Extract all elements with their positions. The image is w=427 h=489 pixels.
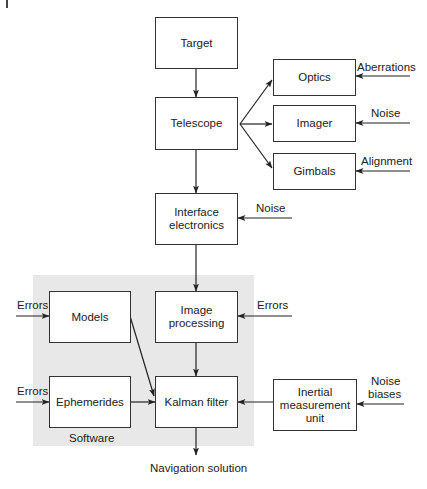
- block-imu-label: Inertial measurement unit: [278, 386, 352, 425]
- block-telescope-label: Telescope: [171, 117, 223, 130]
- input-label-image-processing-errors: Errors: [257, 299, 288, 312]
- input-label-imu-biases: biases: [368, 388, 401, 401]
- block-gimbals: Gimbals: [273, 153, 356, 190]
- input-label-imager-noise: Noise: [371, 107, 400, 120]
- block-target: Target: [155, 17, 238, 69]
- block-interface-electronics-label: Interface electronics: [166, 206, 227, 232]
- block-telescope: Telescope: [155, 97, 238, 150]
- block-image-processing: Image processing: [155, 291, 238, 343]
- input-label-aberrations: Aberrations: [357, 61, 416, 74]
- block-ephemerides-label: Ephemerides: [56, 396, 124, 409]
- output-label-navigation-solution: Navigation solution: [150, 462, 247, 475]
- block-interface-electronics: Interface electronics: [155, 193, 238, 245]
- input-label-ephemerides-errors: Errors: [17, 385, 48, 398]
- block-kalman-filter: Kalman filter: [155, 376, 238, 428]
- block-models: Models: [49, 291, 131, 343]
- input-label-models-errors: Errors: [17, 299, 48, 312]
- block-imu: Inertial measurement unit: [273, 379, 357, 431]
- block-target-label: Target: [181, 37, 213, 50]
- block-gimbals-label: Gimbals: [293, 165, 335, 178]
- block-optics: Optics: [273, 59, 356, 96]
- block-optics-label: Optics: [298, 71, 331, 84]
- software-group-label: Software: [69, 432, 114, 445]
- block-kalman-filter-label: Kalman filter: [165, 396, 229, 409]
- block-imager-label: Imager: [297, 117, 333, 130]
- input-label-interface-noise: Noise: [256, 202, 285, 215]
- input-label-imu-noise: Noise: [371, 375, 400, 388]
- input-label-alignment: Alignment: [361, 155, 412, 168]
- block-ephemerides: Ephemerides: [49, 376, 131, 428]
- block-imager: Imager: [273, 105, 356, 142]
- block-models-label: Models: [71, 311, 108, 324]
- block-image-processing-label: Image processing: [169, 304, 225, 330]
